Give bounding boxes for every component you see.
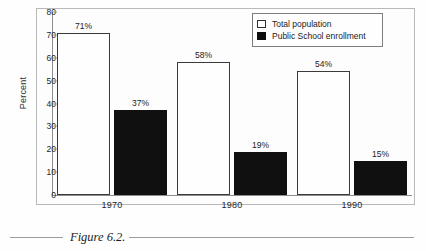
y-axis-tick-label: 80: [22, 7, 56, 17]
figure-container: Percent 01020304050607080 197019801990 7…: [0, 0, 426, 251]
filled-square-swatch-icon: [257, 32, 266, 40]
y-axis-tick-mark: [53, 12, 57, 13]
x-axis-line: [52, 195, 412, 196]
bar-value-label: 15%: [372, 149, 389, 159]
caption-rule-left: [10, 237, 63, 238]
bar-1980-public-school-enrollment[interactable]: [234, 152, 287, 195]
bar-1980-total-population[interactable]: [177, 62, 230, 195]
y-axis-tick-label: 70: [22, 30, 56, 40]
legend-item-public-school-enrollment[interactable]: Public School enrollment: [257, 30, 377, 42]
bar-1990-total-population[interactable]: [297, 71, 350, 195]
bar-value-label: 58%: [195, 50, 212, 60]
y-axis-tick-label: 20: [22, 144, 56, 154]
bar-value-label: 71%: [75, 21, 92, 31]
y-axis-tick-label: 50: [22, 76, 56, 86]
bar-1970-total-population[interactable]: [57, 33, 110, 195]
y-axis-tick-label: 10: [22, 167, 56, 177]
legend-item-total-population[interactable]: Total population: [257, 18, 377, 30]
y-axis-tick-label: 40: [22, 99, 56, 109]
bar-value-label: 37%: [132, 98, 149, 108]
bar-value-label: 54%: [315, 59, 332, 69]
open-square-swatch-icon: [257, 20, 266, 28]
bar-value-label: 19%: [252, 140, 269, 150]
figure-caption-band: Figure 6.2.: [0, 226, 426, 248]
x-axis-tick-label: 1970: [101, 200, 122, 210]
bar-1970-public-school-enrollment[interactable]: [114, 110, 167, 195]
x-axis-tick-label: 1990: [341, 200, 362, 210]
bar-1990-public-school-enrollment[interactable]: [354, 161, 407, 195]
chart-legend: Total population Public School enrollmen…: [252, 13, 383, 47]
legend-label: Public School enrollment: [272, 31, 366, 41]
y-axis-tick-label: 30: [22, 121, 56, 131]
y-axis-tick-label: 0: [22, 190, 56, 200]
caption-rule-right: [129, 237, 414, 238]
y-axis-tick-label: 60: [22, 53, 56, 63]
legend-label: Total population: [272, 19, 332, 29]
x-axis-tick-label: 1980: [221, 200, 242, 210]
figure-caption: Figure 6.2.: [63, 230, 129, 245]
